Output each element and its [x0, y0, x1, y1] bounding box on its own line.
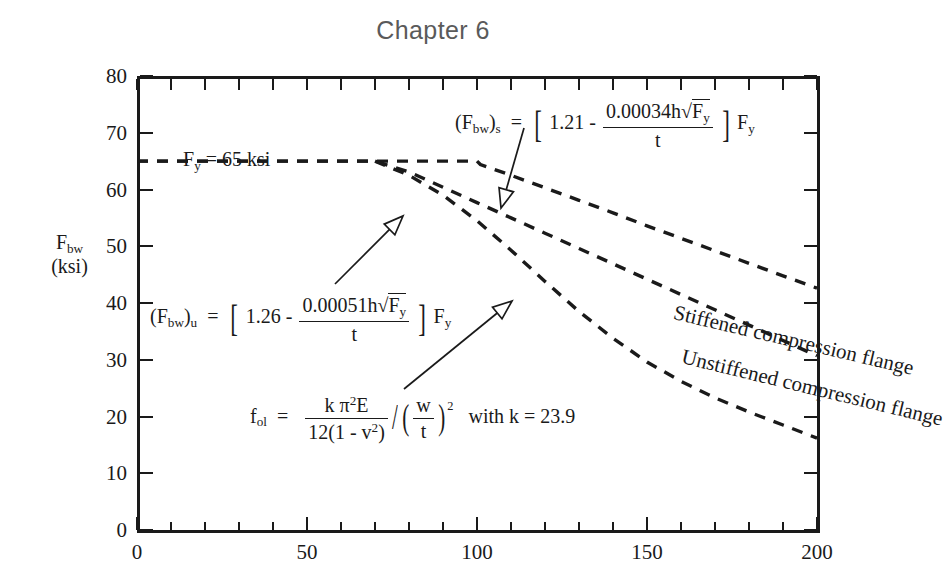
x-tick — [782, 522, 784, 530]
fy-annotation: Fy = 65 ksi — [183, 148, 270, 173]
x-tick-top — [136, 79, 138, 90]
y-tick-label: 0 — [117, 518, 128, 543]
x-tick-label: 200 — [801, 540, 833, 564]
fraction-unstiffened: 0.00051h√Fy t — [299, 292, 409, 346]
x-tick-top — [340, 79, 342, 90]
x-tick-top — [510, 79, 512, 90]
x-tick — [170, 522, 172, 530]
y-tick-label: 70 — [106, 120, 127, 145]
axis-left — [137, 76, 140, 533]
y-tick-right — [804, 359, 817, 361]
y-tick-right — [804, 132, 817, 134]
x-tick-top — [782, 79, 784, 90]
paren-close: ) — [438, 398, 445, 438]
y-tick — [140, 189, 153, 191]
x-tick — [204, 522, 206, 530]
x-tick — [136, 517, 138, 530]
x-tick — [476, 517, 478, 530]
x-tick — [544, 522, 546, 530]
x-tick — [714, 522, 716, 530]
y-tick-label: 10 — [106, 461, 127, 486]
y-tick — [140, 132, 153, 134]
x-tick-top — [238, 79, 240, 90]
page-title: Chapter 6 — [0, 16, 866, 45]
x-tick — [272, 522, 274, 530]
x-tick-top — [714, 79, 716, 90]
x-tick-top — [306, 79, 308, 90]
x-tick — [238, 522, 240, 530]
x-tick-top — [816, 79, 818, 90]
divide-slash: / — [392, 398, 398, 438]
bracket-close: ] — [722, 103, 730, 146]
x-tick-top — [442, 79, 444, 90]
x-tick-top — [680, 79, 682, 90]
y-tick — [140, 359, 153, 361]
y-tick-label: 20 — [106, 404, 127, 429]
x-tick-top — [374, 79, 376, 90]
bracket-close: ] — [419, 297, 427, 340]
x-tick-label: 0 — [132, 540, 143, 564]
y-axis-title-unit: (ksi) — [51, 255, 88, 277]
x-tick — [340, 522, 342, 530]
y-tick — [140, 75, 153, 77]
fraction-wt: wt — [413, 394, 433, 443]
y-tick-label: 30 — [106, 347, 127, 372]
x-tick-label: 50 — [297, 540, 318, 564]
x-tick — [748, 522, 750, 530]
y-tick-right — [804, 472, 817, 474]
bracket-open: [ — [231, 297, 239, 340]
formula-elastic-buckling: fol = k π2E 12(1 - v2) /(wt)2 with k = 2… — [250, 393, 575, 443]
x-tick-top — [578, 79, 580, 90]
y-tick-right — [804, 245, 817, 247]
y-tick — [140, 416, 153, 418]
y-tick-right — [804, 189, 817, 191]
x-tick — [374, 522, 376, 530]
x-tick-label: 100 — [461, 540, 493, 564]
fraction-elastic: k π2E 12(1 - v2) — [305, 393, 388, 443]
y-axis-title-symbol: Fbw — [56, 231, 83, 253]
with-k-text: with k = 23.9 — [469, 405, 576, 427]
x-tick-top — [476, 79, 478, 90]
x-tick — [510, 522, 512, 530]
bracket-open: [ — [534, 103, 542, 146]
axis-bottom — [137, 530, 820, 533]
x-tick — [816, 517, 818, 530]
fraction-stiffened: 0.00034h√Fy t — [603, 98, 713, 152]
y-tick-label: 40 — [106, 291, 127, 316]
x-tick — [578, 522, 580, 530]
x-tick — [442, 522, 444, 530]
x-tick — [408, 522, 410, 530]
y-tick — [140, 472, 153, 474]
axis-right — [817, 76, 820, 533]
y-tick-right — [804, 416, 817, 418]
formula-stiffened: (Fbw)s = [ 1.21 - 0.00034h√Fy t ] Fy — [455, 98, 755, 152]
y-tick — [140, 529, 153, 531]
y-tick-right — [804, 75, 817, 77]
paren-open: ( — [402, 398, 409, 438]
y-tick-label: 60 — [106, 177, 127, 202]
x-tick-top — [646, 79, 648, 90]
x-tick-top — [204, 79, 206, 90]
y-tick — [140, 245, 153, 247]
y-tick-right — [804, 302, 817, 304]
y-tick-label: 80 — [106, 64, 127, 89]
x-tick-top — [748, 79, 750, 90]
x-tick-top — [544, 79, 546, 90]
x-tick-top — [612, 79, 614, 90]
x-tick-top — [272, 79, 274, 90]
formula-unstiffened: (Fbw)u = [ 1.26 - 0.00051h√Fy t ] Fy — [150, 292, 451, 346]
x-tick-top — [408, 79, 410, 90]
x-tick — [646, 517, 648, 530]
x-tick — [680, 522, 682, 530]
x-tick — [306, 517, 308, 530]
x-tick — [612, 522, 614, 530]
x-tick-top — [170, 79, 172, 90]
x-tick-label: 150 — [631, 540, 663, 564]
y-axis-title: Fbw (ksi) — [22, 232, 117, 277]
